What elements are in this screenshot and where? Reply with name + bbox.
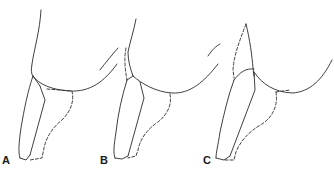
- panel-c-upper-contour: [246, 24, 254, 76]
- panel-c-label: C: [203, 155, 211, 166]
- panel-c-crown-inner: [230, 72, 255, 156]
- panel-a-crown-inner: [30, 86, 45, 155]
- panel-b-tip: [115, 156, 128, 159]
- panel-b-gum-dashed: [128, 94, 171, 158]
- panel-c-gum-dashed: [224, 90, 290, 160]
- figure: A B C: [0, 0, 334, 169]
- panel-b-upper-dashed: [125, 48, 127, 80]
- panel-c-left-contour: [208, 44, 220, 56]
- panel-a-crown-outer: [19, 76, 33, 158]
- panel-c-junction: [234, 69, 254, 80]
- panel-a-inner-edge: [33, 76, 40, 86]
- panel-c: [208, 24, 332, 160]
- panel-a-lip-curve: [33, 64, 117, 91]
- panel-b-crown-top: [127, 76, 133, 80]
- panel-a-gum-dashed: [30, 89, 73, 160]
- panel-c-upper-dashed: [233, 24, 246, 78]
- panel-b-lip-curve: [133, 64, 218, 93]
- panel-c-tip: [216, 156, 230, 160]
- panel-c-lip-curve: [254, 60, 332, 93]
- panel-a-upper-contour: [31, 10, 41, 76]
- panel-b-crown-outer: [114, 80, 127, 158]
- panel-b-label: B: [100, 155, 108, 166]
- panel-b-upper-contour: [128, 19, 136, 76]
- panel-a-label: A: [2, 155, 10, 166]
- panel-a-tip: [20, 155, 30, 160]
- panel-a: [19, 10, 117, 160]
- panel-c-crown-outer: [216, 80, 234, 158]
- panel-b-crown-inner: [128, 82, 144, 156]
- diagram-canvas: [0, 0, 334, 169]
- panel-b: [100, 19, 218, 159]
